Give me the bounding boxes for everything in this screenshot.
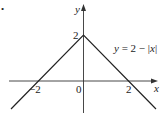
tick-label-y-2: 2 bbox=[73, 29, 79, 41]
graph-diagram: • y x 2 −2 0 2 y = 2 − |x| bbox=[0, 0, 166, 115]
x-axis-label: x bbox=[153, 82, 159, 94]
y-axis-label: y bbox=[74, 3, 80, 15]
origin-label: 0 bbox=[76, 83, 82, 95]
equation-label: y = 2 − |x| bbox=[113, 42, 157, 54]
y-axis-arrow-icon bbox=[81, 4, 86, 11]
tick-label-x-neg2: −2 bbox=[29, 83, 41, 95]
bullet-mark: • bbox=[1, 4, 4, 14]
tick-label-x-2: 2 bbox=[126, 83, 132, 95]
